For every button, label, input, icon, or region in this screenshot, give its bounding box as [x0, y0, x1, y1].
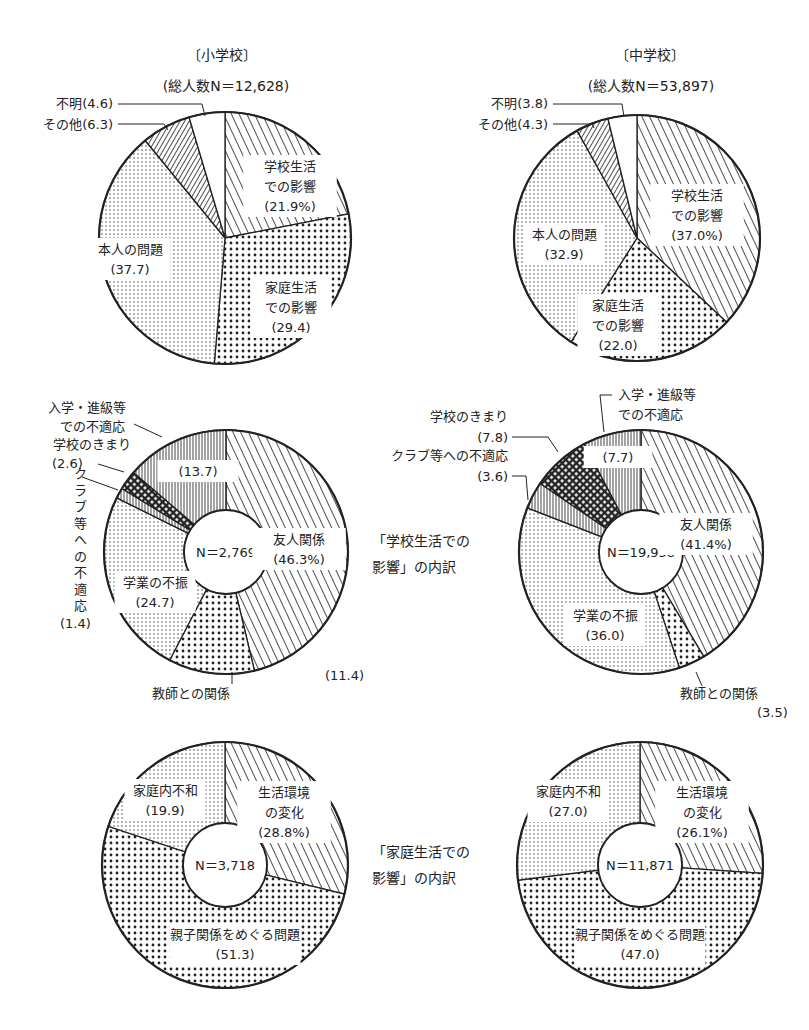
data-label: 家庭生活 — [265, 280, 317, 295]
vertical-char: ブ — [74, 499, 87, 514]
data-label: 学校生活 — [671, 188, 723, 203]
data-label: 親子関係をめぐる問題 — [575, 927, 705, 942]
data-label: (28.8%) — [258, 825, 309, 840]
data-label: 学校生活 — [264, 159, 316, 174]
center-label: N＝3,718 — [195, 858, 255, 873]
slice-label-friends: 友人関係(46.3%) — [252, 528, 346, 570]
vertical-char: の — [74, 549, 87, 564]
center-label: N＝11,871 — [606, 858, 674, 873]
callout-club-value: (3.6) — [477, 469, 508, 484]
data-label: 家庭内不和 — [133, 783, 198, 798]
vertical-char: 不 — [74, 565, 87, 580]
leader-line — [553, 104, 624, 117]
data-label: での影響 — [592, 318, 644, 333]
callout-rules-value: (7.8) — [477, 430, 508, 445]
callout-teacher-value: (11.4) — [325, 668, 364, 683]
callout-rules-label: 学校のきまり — [430, 409, 508, 424]
data-label: (37.7) — [110, 262, 149, 277]
slice-label-school-life: 学校生活での影響(21.9%) — [243, 155, 337, 217]
slice-label-home-life: 家庭生活での影響(22.0) — [578, 294, 659, 356]
data-label: (46.3%) — [273, 552, 324, 567]
slice-label-school-life: 学校生活での影響(37.0%) — [650, 184, 744, 246]
data-label: (32.9) — [544, 247, 583, 262]
callout-other: その他(4.3) — [478, 117, 548, 132]
side-label-school-1: 「学校生活での — [372, 533, 470, 549]
callout-admission-2: での不適応 — [618, 407, 683, 422]
slice-label-home-life: 家庭生活での影響(29.4) — [251, 276, 332, 338]
callout-admission-2: での不適応 — [60, 419, 125, 434]
vertical-char: へ — [74, 532, 87, 547]
donut-elem-school: N＝2,769友人関係(46.3%)学業の不振(24.7)(13.7) — [104, 430, 348, 674]
center-label: N＝2,769 — [196, 545, 256, 560]
slice-label-family-discord: 家庭内不和(27.0) — [528, 780, 609, 822]
data-label: での影響 — [264, 179, 316, 194]
leader-line — [600, 395, 612, 432]
vertical-char: ク — [74, 466, 87, 481]
slice-label-academic: 学業の不振(24.7) — [115, 571, 196, 613]
callout-admission-1: 入学・進級等 — [48, 400, 126, 415]
data-label: の変化 — [683, 805, 722, 820]
callout-admission-1: 入学・進級等 — [618, 387, 696, 402]
callout-unknown: 不明(3.8) — [491, 96, 548, 111]
vertical-char: 適 — [74, 582, 87, 597]
data-label: 生活環境 — [258, 785, 310, 800]
slice-label-environment-change: 生活環境の変化(26.1%) — [655, 781, 749, 843]
data-label: 学業の不振 — [573, 608, 638, 623]
callout-club-label: クラブ等への不適応 — [391, 448, 508, 463]
data-label: 親子関係をめぐる問題 — [170, 927, 300, 942]
slice-label-family-discord: 家庭内不和(19.9) — [125, 779, 206, 821]
pie-elem-total: 学校生活での影響(21.9%)家庭生活での影響(29.4)本人の問題(37.7) — [90, 112, 352, 364]
data-label: (22.0) — [598, 338, 637, 353]
slice-label-parent-child: 親子関係をめぐる問題(51.3) — [170, 923, 301, 965]
leader-line — [98, 464, 124, 472]
slice-label-personal-problem: 本人の問題(32.9) — [524, 223, 605, 265]
data-label: 本人の問題 — [98, 242, 163, 257]
junior-subtitle: (総人数N＝53,897) — [588, 78, 714, 94]
data-label: (51.3) — [215, 947, 254, 962]
elem-subtitle: (総人数N＝12,628) — [163, 78, 289, 94]
callout-teacher-label: 教師との関係 — [152, 686, 230, 701]
callout-teacher-label: 教師との関係 — [680, 686, 758, 701]
data-label: 友人関係 — [273, 532, 325, 547]
slice-label-admission: (7.7) — [584, 446, 653, 468]
data-label: 家庭内不和 — [536, 784, 601, 799]
slice-label-environment-change: 生活環境の変化(28.8%) — [237, 781, 331, 843]
data-label: (24.7) — [135, 595, 174, 610]
data-label: (47.0) — [620, 947, 659, 962]
data-label: での影響 — [671, 208, 723, 223]
data-label: 生活環境 — [676, 785, 728, 800]
data-label: (19.9) — [145, 803, 184, 818]
callout-teacher-value: (3.5) — [757, 705, 788, 720]
callout-club-vertical: クラブ等への不適応 — [74, 466, 87, 613]
leader-line — [82, 477, 118, 490]
donut-junior-school: N＝19,958友人関係(41.4%)学業の不振(36.0)(7.7) — [519, 430, 763, 674]
pie-junior-total: 学校生活での影響(37.0%)家庭生活での影響(22.0)本人の問題(32.9) — [514, 115, 760, 361]
data-label: (27.0) — [548, 804, 587, 819]
leader-line — [512, 437, 558, 452]
vertical-char: 応 — [74, 598, 87, 613]
data-label: (29.4) — [271, 320, 310, 335]
slice-label-parent-child: 親子関係をめぐる問題(47.0) — [575, 923, 706, 965]
data-label: (13.7) — [178, 464, 217, 479]
data-label: (37.0%) — [671, 228, 722, 243]
data-label: の変化 — [265, 805, 304, 820]
callout-rules-label: 学校のきまり — [53, 437, 131, 452]
data-label: (21.9%) — [264, 199, 315, 214]
data-label: (36.0) — [585, 628, 624, 643]
data-label: (7.7) — [603, 450, 634, 465]
data-label: (41.4%) — [680, 537, 731, 552]
donut-elem-home: N＝3,718生活環境の変化(28.8%)親子関係をめぐる問題(51.3)家庭内… — [102, 742, 348, 988]
leader-line — [512, 476, 528, 500]
side-label-school-2: 影響」の内訳 — [372, 559, 456, 575]
leader-line — [118, 104, 205, 116]
slice-label-admission: (13.7) — [158, 460, 239, 482]
side-label-home-1: 「家庭生活での — [372, 844, 470, 860]
side-label-home-2: 影響」の内訳 — [372, 870, 456, 886]
slice-label-personal-problem: 本人の問題(37.7) — [90, 238, 171, 280]
data-label: 本人の問題 — [532, 227, 597, 242]
vertical-char: 等 — [74, 516, 87, 531]
slice-label-academic: 学業の不振(36.0) — [565, 604, 646, 646]
data-label: (26.1%) — [676, 825, 727, 840]
data-label: 友人関係 — [680, 517, 732, 532]
elem-title: 〔小学校〕 — [187, 47, 257, 63]
